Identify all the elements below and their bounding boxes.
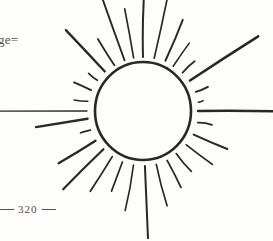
scanned-page: ge= 320 [0, 0, 273, 241]
sun-ray [190, 36, 258, 80]
sun-ray [90, 157, 112, 192]
sun-ray [154, 0, 167, 58]
sun-ray [198, 101, 203, 103]
sun-ray [198, 123, 212, 125]
sun-ray [89, 73, 98, 80]
sun-ray [74, 82, 91, 90]
sun-ray [112, 162, 123, 191]
page-folio: 320 [0, 203, 56, 215]
sun-disc-outline [95, 62, 191, 160]
sun-ray [156, 164, 167, 205]
sun-ray [194, 135, 228, 149]
sun-ray [98, 39, 115, 65]
sun-ray [196, 87, 208, 92]
sun-ray [183, 61, 195, 73]
sun-ray [59, 141, 96, 164]
header-text-fragment: ge= [0, 32, 19, 48]
sun-ray [198, 111, 273, 112]
sun-ray [125, 165, 133, 210]
sun-ray [66, 30, 105, 71]
sun-ray [81, 130, 91, 133]
sun-ray [176, 154, 191, 172]
sun-ray [173, 43, 189, 66]
sun-ray [63, 149, 103, 189]
folio-rule-right [42, 209, 56, 210]
folio-rule-left [0, 209, 14, 210]
sun-ray [125, 9, 134, 58]
sun-ray [74, 100, 88, 101]
sun-ray [143, 0, 144, 57]
sun-ray [167, 160, 181, 187]
sun-ray [145, 166, 148, 238]
folio-number: 320 [14, 203, 42, 215]
sun-ray [36, 119, 88, 127]
sun-ray [186, 145, 212, 165]
